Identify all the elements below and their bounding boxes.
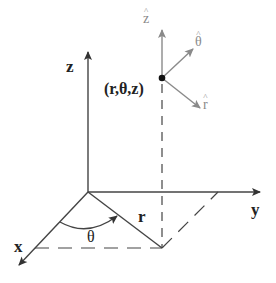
- y-axis-label: y: [251, 201, 260, 218]
- z-hat-label: ^ z: [143, 7, 149, 26]
- point-marker: [159, 75, 166, 82]
- dashed-y-projection: [162, 192, 218, 248]
- theta-hat-label: ^ θ: [195, 30, 202, 49]
- theta-angle-arc: [60, 216, 117, 229]
- z-axis-label: z: [66, 58, 74, 75]
- r-hat-label: ^ r: [203, 93, 208, 112]
- point-label: (r,θ,z): [104, 81, 144, 97]
- cylindrical-coordinates-diagram: z y x (r,θ,z) r θ ^ z ^ θ ^ r: [0, 0, 276, 283]
- radial-label: r: [138, 208, 146, 225]
- theta-hat-vector: [162, 49, 193, 78]
- diagram-graphics: [0, 0, 276, 283]
- x-axis-label: x: [14, 238, 23, 255]
- angle-label: θ: [87, 229, 95, 245]
- r-hat-vector: [162, 78, 200, 108]
- radial-line-r: [88, 192, 162, 248]
